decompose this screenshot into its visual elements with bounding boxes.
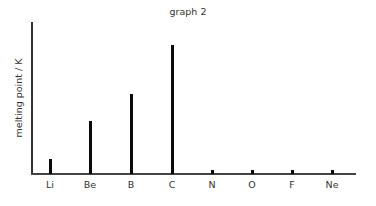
bar-b <box>130 94 133 174</box>
x-tick-f: F <box>289 179 294 190</box>
x-tick-ne: Ne <box>326 179 339 190</box>
x-axis-line <box>31 173 356 175</box>
x-tick-b: B <box>128 179 135 190</box>
bar-ne <box>331 170 334 174</box>
bar-f <box>291 170 294 174</box>
bar-n <box>211 170 214 174</box>
x-tick-be: Be <box>84 179 96 190</box>
bar-li <box>49 159 52 174</box>
x-tick-li: Li <box>46 179 54 190</box>
bar-o <box>251 170 254 174</box>
bar-c <box>171 45 174 174</box>
bar-be <box>89 121 92 174</box>
y-axis-label: melting point / K <box>13 59 24 138</box>
x-tick-o: O <box>248 179 255 190</box>
y-axis-line <box>31 22 33 174</box>
x-tick-n: N <box>208 179 215 190</box>
x-tick-c: C <box>169 179 176 190</box>
chart-title: graph 2 <box>0 6 376 17</box>
